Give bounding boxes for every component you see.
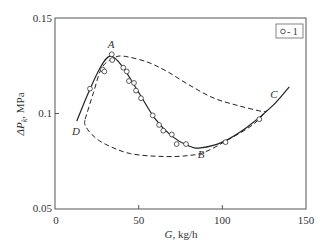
data-point-marker <box>121 65 126 70</box>
data-point-marker <box>174 142 179 147</box>
data-point-marker <box>127 79 132 84</box>
y-tick-label: 0.1 <box>38 107 52 119</box>
x-tick-labels: 0 50 100 150 <box>53 214 315 226</box>
point-label-d: D <box>71 125 80 137</box>
legend-label: - 1 <box>287 26 298 37</box>
y-axis-title-unit: , MPa <box>14 92 26 118</box>
solid-curve <box>77 56 289 148</box>
data-point-marker <box>223 140 228 145</box>
data-markers <box>88 52 262 147</box>
chart: 0 50 100 150 0.05 0.1 0.15 G, kg/h ΔPk, … <box>0 0 328 250</box>
x-tick-label: 150 <box>298 214 315 226</box>
x-axis-title: G, kg/h <box>164 228 198 240</box>
point-label-b: B <box>198 148 205 160</box>
plot-frame <box>55 18 306 209</box>
x-axis <box>139 205 223 209</box>
data-point-marker <box>184 142 189 147</box>
x-tick-label: 100 <box>214 214 231 226</box>
data-point-marker <box>161 128 166 133</box>
data-point-marker <box>110 58 115 63</box>
data-point-marker <box>88 86 93 91</box>
data-point-marker <box>150 113 155 118</box>
y-axis-title-var: ΔP <box>14 122 26 136</box>
x-tick-label: 50 <box>133 214 145 226</box>
data-point-marker <box>134 88 139 93</box>
data-point-marker <box>139 96 144 101</box>
x-axis-title-unit: , kg/h <box>172 228 198 240</box>
data-point-marker <box>257 117 262 122</box>
x-axis-title-var: G <box>164 228 172 240</box>
data-point-marker <box>169 132 174 137</box>
y-tick-labels: 0.05 0.1 0.15 <box>33 12 53 214</box>
point-label-a: A <box>107 38 115 50</box>
y-axis-title: ΔPk, MPa <box>14 92 29 136</box>
y-tick-label: 0.15 <box>33 12 53 24</box>
data-point-marker <box>109 52 114 57</box>
data-point-marker <box>157 123 162 128</box>
data-point-marker <box>124 69 129 74</box>
data-point-marker <box>132 81 137 86</box>
data-point-marker <box>102 69 107 74</box>
legend: - 1 <box>276 24 303 38</box>
y-tick-label: 0.05 <box>33 202 53 214</box>
x-tick-label: 0 <box>53 214 59 226</box>
curves <box>77 56 289 157</box>
point-label-c: C <box>270 88 278 100</box>
